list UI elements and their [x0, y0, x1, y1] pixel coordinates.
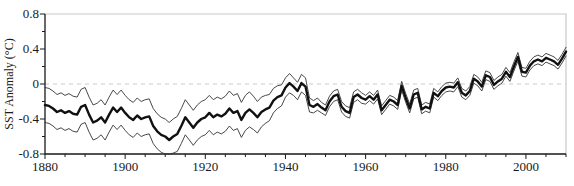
x-tick-label-1920: 1920: [192, 159, 218, 174]
x-tick-label-1960: 1960: [353, 159, 379, 174]
y-tick-label--0.8: -0.8: [18, 146, 39, 161]
x-tick-label-1900: 1900: [112, 159, 138, 174]
x-tick-label-1880: 1880: [32, 159, 58, 174]
sst-anomaly-figure: 18801900192019401960198020000.80.40-0.4-…: [0, 0, 574, 186]
x-tick-label-2000: 2000: [513, 159, 539, 174]
y-axis-title: SST Anomaly (°C): [2, 38, 16, 129]
y-tick-label-0.4: 0.4: [23, 41, 40, 56]
y-tick-label-0: 0: [33, 76, 40, 91]
lower-uncertainty-bound-line: [45, 56, 566, 154]
x-tick-label-1940: 1940: [272, 159, 298, 174]
x-tick-label-1980: 1980: [433, 159, 459, 174]
y-tick-label-0.8: 0.8: [23, 6, 39, 21]
sst-anomaly-time-series-chart: 18801900192019401960198020000.80.40-0.4-…: [0, 0, 574, 186]
y-tick-label--0.4: -0.4: [18, 111, 39, 126]
